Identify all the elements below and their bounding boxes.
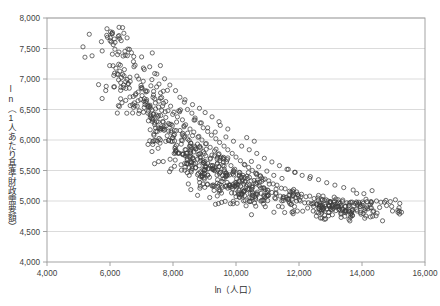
y-tick-label: 6,000: [20, 136, 41, 145]
y-tick-label: 5,500: [20, 167, 41, 176]
x-tick-label: 4,000: [37, 269, 58, 278]
x-tick-label: 14,000: [349, 269, 374, 278]
x-tick-label: 16,000: [412, 269, 437, 278]
scatter-plot: 4,0006,0008,00010,00012,00014,00016,000 …: [0, 0, 440, 306]
chart-figure: 4,0006,0008,00010,00012,00014,00016,000 …: [0, 0, 440, 306]
x-tick-label: 8,000: [163, 269, 184, 278]
y-tick-label: 5,000: [20, 197, 41, 206]
y-tick-label: 4,000: [20, 258, 41, 267]
y-tick-label: 8,000: [20, 14, 41, 23]
y-axis-tick-labels: 4,0004,5005,0005,5006,0006,5007,0007,500…: [20, 14, 41, 267]
y-tick-label: 6,500: [20, 106, 41, 115]
y-tick-label: 4,500: [20, 228, 41, 237]
x-tick-label: 10,000: [223, 269, 248, 278]
x-axis-title: ln（人口）: [215, 285, 258, 295]
x-tick-label: 6,000: [100, 269, 121, 278]
x-tick-label: 12,000: [286, 269, 311, 278]
y-tick-label: 7,500: [20, 45, 41, 54]
y-tick-label: 7,000: [20, 75, 41, 84]
